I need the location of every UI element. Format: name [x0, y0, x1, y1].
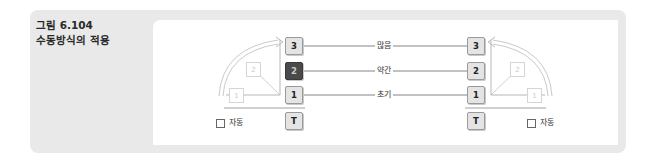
- right-ghost-box-2: 2: [510, 62, 525, 77]
- right-t-button[interactable]: T: [467, 112, 485, 130]
- left-level-3-button[interactable]: 3: [285, 37, 303, 55]
- left-level-1-button[interactable]: 1: [285, 86, 303, 104]
- right-ghost-box-1: 1: [527, 88, 542, 103]
- right-auto-checkbox[interactable]: [527, 119, 536, 128]
- right-level-3-button[interactable]: 3: [467, 37, 485, 55]
- left-ghost-box-2: 2: [246, 62, 261, 77]
- left-t-button[interactable]: T: [285, 112, 303, 130]
- right-level-2-button[interactable]: 2: [467, 62, 485, 80]
- level-label-3: 많음: [375, 41, 393, 51]
- left-auto-label: 자동: [229, 118, 243, 128]
- left-auto-checkbox[interactable]: [216, 119, 225, 128]
- left-level-2-button-selected[interactable]: 2: [285, 62, 303, 80]
- right-level-1-button[interactable]: 1: [467, 86, 485, 104]
- right-auto-label: 자동: [540, 118, 554, 128]
- diagram-lines: [0, 0, 657, 160]
- level-label-1: 초기: [375, 90, 393, 100]
- level-label-2: 약간: [375, 66, 393, 76]
- left-ghost-box-1: 1: [229, 88, 244, 103]
